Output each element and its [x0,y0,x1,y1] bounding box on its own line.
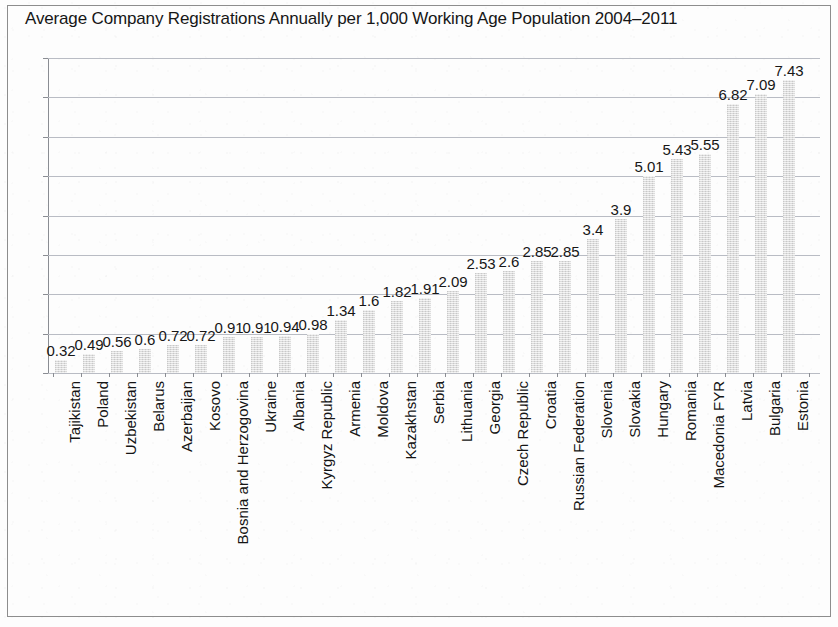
x-category-label: Ukraine [263,381,278,433]
chart-screenshot: Average Company Registrations Annually p… [0,0,838,627]
bar[interactable] [447,291,459,373]
x-category-label: Belarus [151,381,166,432]
bar[interactable] [615,219,627,373]
x-tick-mark [641,373,642,377]
x-tick-mark [473,373,474,377]
x-tick-mark [277,373,278,377]
bar[interactable] [783,80,795,373]
x-tick-mark [53,373,54,377]
x-tick-mark [165,373,166,377]
x-category-label: Kazakhstan [403,381,418,459]
bar[interactable] [279,336,291,373]
bar[interactable] [139,349,151,373]
x-category-label: Kosovo [207,381,222,431]
x-tick-mark [585,373,586,377]
x-tick-mark [753,373,754,377]
bar[interactable] [167,345,179,373]
x-category-label: Albania [291,381,306,431]
x-tick-mark [137,373,138,377]
bar[interactable] [699,154,711,373]
bar-value-label: 7.43 [769,63,809,78]
x-tick-mark [389,373,390,377]
x-category-label: Azerbaijan [179,381,194,452]
x-category-label: Estonia [795,381,810,431]
bar-value-label: 2.85 [545,244,585,259]
bar-value-label: 7.09 [741,77,781,92]
x-tick-mark [781,373,782,377]
bar[interactable] [223,337,235,373]
gridline-y-8 [48,58,820,59]
bar[interactable] [307,334,319,373]
x-category-label: Lithuania [459,381,474,442]
x-tick-mark [613,373,614,377]
x-category-label: Macedonia FYR [711,381,726,489]
bar[interactable] [111,351,123,373]
x-category-label: Armenia [347,381,362,437]
bar[interactable] [419,298,431,373]
x-tick-mark [193,373,194,377]
x-category-label: Poland [95,381,110,428]
x-tick-mark [417,373,418,377]
y-tick-mark-4 [43,216,48,217]
bar[interactable] [755,94,767,373]
y-tick-mark-1 [43,334,48,335]
y-tick-mark-0 [43,373,48,374]
x-tick-mark [333,373,334,377]
x-tick-mark [109,373,110,377]
bar-value-label: 3.9 [601,202,641,217]
y-tick-mark-8 [43,58,48,59]
x-tick-mark [361,373,362,377]
bar-value-label: 3.4 [573,222,613,237]
x-tick-mark [221,373,222,377]
x-category-label: Romania [683,381,698,441]
y-tick-mark-6 [43,137,48,138]
gridline-y-7 [48,97,820,98]
bar[interactable] [559,261,571,373]
x-category-label: Kyrgyz Republic [319,381,334,489]
x-tick-mark [529,373,530,377]
bar[interactable] [335,320,347,373]
x-tick-mark [81,373,82,377]
bar[interactable] [83,354,95,373]
bar[interactable] [643,176,655,373]
x-tick-mark [669,373,670,377]
bar-value-label: 5.01 [629,159,669,174]
x-category-label: Croatia [543,381,558,429]
y-tick-mark-2 [43,294,48,295]
gridline-y-0 [48,373,820,374]
category-label-layer: TajikistanPolandUzbekistanBelarusAzerbai… [48,381,820,621]
bar[interactable] [363,310,375,373]
x-tick-mark [249,373,250,377]
x-tick-mark [725,373,726,377]
bar[interactable] [531,261,543,373]
x-category-label: Latvia [739,381,754,421]
x-category-label: Serbia [431,381,446,424]
bar[interactable] [587,239,599,373]
bar[interactable] [475,273,487,373]
x-category-label: Czech Republic [515,381,530,486]
x-category-label: Tajikistan [67,381,82,443]
bar-value-label: 5.55 [685,137,725,152]
x-category-label: Uzbekistan [123,381,138,455]
x-category-label: Bosnia and Herzogovina [235,381,250,544]
x-tick-mark [809,373,810,377]
bar[interactable] [503,271,515,373]
y-tick-mark-5 [43,176,48,177]
x-category-label: Moldova [375,381,390,438]
bar[interactable] [671,159,683,373]
x-category-label: Hungary [655,381,670,438]
x-category-label: Russian Federation [571,381,586,511]
bar[interactable] [195,345,207,373]
bar-value-label: 0.98 [293,317,333,332]
x-category-label: Slovenia [599,381,614,439]
bar[interactable] [727,104,739,373]
bar-value-label: 2.09 [433,274,473,289]
x-tick-mark [305,373,306,377]
x-category-label: Slovakia [627,381,642,438]
bar[interactable] [391,301,403,373]
x-category-label: Georgia [487,381,502,434]
chart-title: Average Company Registrations Annually p… [25,9,677,29]
x-tick-mark [501,373,502,377]
bar[interactable] [55,360,67,373]
bar[interactable] [251,337,263,373]
